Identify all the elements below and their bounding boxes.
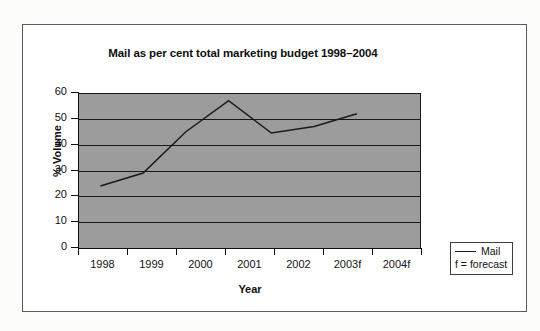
x-tick-label-2004f: 2004f bbox=[367, 258, 427, 270]
x-tick-0 bbox=[78, 248, 79, 255]
y-axis-title: % Volume bbox=[51, 101, 63, 201]
y-tick-30 bbox=[71, 170, 79, 171]
chart-legend[interactable]: Mail f = forecast bbox=[450, 242, 513, 275]
plot-area bbox=[79, 93, 421, 248]
gridline-40 bbox=[79, 145, 420, 146]
y-tick-50 bbox=[71, 118, 79, 119]
x-axis-line bbox=[78, 248, 422, 249]
y-axis-line bbox=[78, 92, 79, 249]
x-axis-title: Year bbox=[78, 283, 422, 295]
gridline-20 bbox=[79, 196, 420, 197]
y-tick-10 bbox=[71, 221, 79, 222]
y-tick-60 bbox=[71, 92, 79, 93]
legend-item-mail[interactable]: Mail bbox=[455, 245, 507, 258]
y-tick-40 bbox=[71, 144, 79, 145]
y-tick-label-60: 60 bbox=[33, 85, 67, 97]
x-tick-7 bbox=[421, 248, 422, 255]
legend-note-forecast: f = forecast bbox=[455, 258, 507, 271]
x-tick-2 bbox=[176, 248, 177, 255]
x-tick-4 bbox=[274, 248, 275, 255]
gridline-10 bbox=[79, 222, 420, 223]
chart-title: Mail as per cent total marketing budget … bbox=[23, 47, 463, 59]
gridline-30 bbox=[79, 171, 420, 172]
x-tick-6 bbox=[372, 248, 373, 255]
x-tick-3 bbox=[225, 248, 226, 255]
line-swatch-icon bbox=[455, 251, 476, 252]
x-tick-5 bbox=[323, 248, 324, 255]
y-tick-20 bbox=[71, 195, 79, 196]
gridline-50 bbox=[79, 119, 420, 120]
y-tick-label-10: 10 bbox=[33, 214, 67, 226]
chart-frame: Mail as per cent total marketing budget … bbox=[22, 24, 527, 312]
plot-top-border bbox=[79, 93, 420, 94]
legend-label-mail: Mail bbox=[481, 245, 500, 258]
y-tick-label-0: 0 bbox=[33, 240, 67, 252]
x-tick-1 bbox=[127, 248, 128, 255]
